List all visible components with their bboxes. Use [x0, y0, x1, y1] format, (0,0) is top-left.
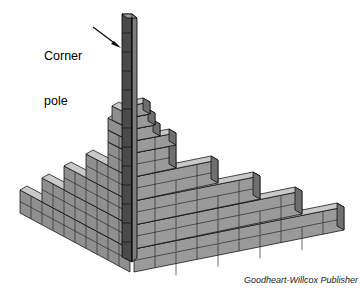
- figure-canvas: Corner pole Goodheart-Willcox Publisher: [0, 0, 364, 293]
- corner-pole: [122, 14, 137, 262]
- publisher-credit: Goodheart-Willcox Publisher: [244, 275, 358, 285]
- corner-pole-label-line2: pole: [44, 94, 82, 109]
- corner-pole-label-line1: Corner: [44, 49, 82, 64]
- corner-pole-label: Corner pole: [44, 19, 82, 139]
